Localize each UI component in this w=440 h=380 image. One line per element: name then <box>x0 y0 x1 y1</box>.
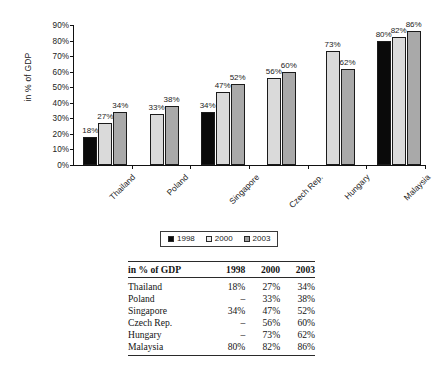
table-row: Czech Rep.–56%60% <box>128 316 315 328</box>
data-table: in % of GDP 1998 2000 2003 Thailand18%27… <box>128 261 315 356</box>
table-cell-1998: – <box>210 292 245 304</box>
y-axis-tick-mark <box>70 56 74 57</box>
table-col-header-2000: 2000 <box>245 262 280 278</box>
legend-label: 2003 <box>253 234 271 243</box>
x-axis-category-label: Czech Rep. <box>287 172 325 210</box>
table-cell-2000: 73% <box>245 329 280 341</box>
bar-value-label: 38% <box>163 95 179 104</box>
bar <box>83 137 97 165</box>
table-row: Poland–33%38% <box>128 292 315 304</box>
table-body: Thailand18%27%34%Poland–33%38%Singapore3… <box>128 278 315 356</box>
table-header: in % of GDP 1998 2000 2003 <box>128 262 315 278</box>
bar-value-label: 73% <box>324 40 340 49</box>
chart-legend: 199820002003 <box>160 231 278 247</box>
bar <box>377 41 391 165</box>
bar <box>201 112 215 165</box>
plot-area: 0%10%20%30%40%50%60%70%80%90% 18%27%34%3… <box>73 25 425 165</box>
bar <box>326 51 340 165</box>
y-axis-tick-label: 90% <box>33 21 69 30</box>
table-cell-2003: 62% <box>280 329 315 341</box>
table-cell-2003: 60% <box>280 316 315 328</box>
y-axis-tick-mark <box>70 72 74 73</box>
x-axis-category-label: Malaysia <box>401 172 431 202</box>
y-axis-tick-label: 20% <box>33 129 69 138</box>
table-cell-country: Poland <box>128 292 210 304</box>
table-cell-2003: 52% <box>280 304 315 316</box>
table-header-row: in % of GDP 1998 2000 2003 <box>128 262 315 278</box>
y-axis-tick-mark <box>70 87 74 88</box>
bar <box>113 112 127 165</box>
table-cell-country: Thailand <box>128 278 210 293</box>
table-cell-1998: – <box>210 316 245 328</box>
y-axis-tick-label: 10% <box>33 145 69 154</box>
x-axis-tick-mark <box>249 165 250 169</box>
y-axis-tick-label: 80% <box>33 36 69 45</box>
bar-value-label: 56% <box>266 67 282 76</box>
bar <box>165 106 179 165</box>
bar-value-label: 52% <box>230 73 246 82</box>
legend-swatch-icon <box>244 236 250 242</box>
y-axis-tick-mark <box>70 41 74 42</box>
bar-value-label: 33% <box>148 103 164 112</box>
table-cell-1998: – <box>210 329 245 341</box>
legend-entry: 2003 <box>244 234 271 243</box>
table-col-header-2003: 2003 <box>280 262 315 278</box>
data-table-container: in % of GDP 1998 2000 2003 Thailand18%27… <box>128 261 315 356</box>
bar-value-label: 47% <box>215 81 231 90</box>
legend-entry: 1998 <box>168 234 195 243</box>
y-axis-line <box>73 25 74 166</box>
legend-swatch-icon <box>168 236 174 242</box>
y-axis-tick-label: 0% <box>33 161 69 170</box>
bar <box>231 84 245 165</box>
bar-chart-figure: in % of GDP 0%10%20%30%40%50%60%70%80%90… <box>0 0 440 222</box>
bar-value-label: 80% <box>376 30 392 39</box>
table-cell-country: Malaysia <box>128 341 210 356</box>
y-axis-tick-mark <box>70 134 74 135</box>
y-axis-title: in % of GDP <box>23 27 33 127</box>
bar-value-label: 18% <box>82 126 98 135</box>
table-row: Thailand18%27%34% <box>128 278 315 293</box>
x-axis-tick-mark <box>425 165 426 169</box>
y-axis-tick-mark <box>70 149 74 150</box>
table-row: Hungary–73%62% <box>128 329 315 341</box>
x-axis-category-label: Thailand <box>108 172 138 202</box>
bar-value-label: 60% <box>281 61 297 70</box>
bar <box>98 123 112 165</box>
table-cell-country: Czech Rep. <box>128 316 210 328</box>
y-axis-tick-mark <box>70 118 74 119</box>
table-cell-2000: 82% <box>245 341 280 356</box>
bar <box>150 114 164 165</box>
x-axis-category-label: Singapore <box>227 172 261 206</box>
y-axis-tick-label: 30% <box>33 114 69 123</box>
table-col-header-1998: 1998 <box>210 262 245 278</box>
table-cell-2000: 56% <box>245 316 280 328</box>
x-axis-tick-mark <box>132 165 133 169</box>
y-axis-tick-label: 70% <box>33 52 69 61</box>
table-cell-2000: 33% <box>245 292 280 304</box>
bar <box>407 31 421 165</box>
bar-value-label: 27% <box>97 112 113 121</box>
legend-entry: 2000 <box>206 234 233 243</box>
bar-value-label: 62% <box>339 58 355 67</box>
y-axis-tick-label: 50% <box>33 83 69 92</box>
x-axis-category-label: Hungary <box>342 172 371 201</box>
x-axis-tick-mark <box>366 165 367 169</box>
bar-value-label: 34% <box>200 101 216 110</box>
legend-label: 2000 <box>215 234 233 243</box>
y-axis-tick-label: 60% <box>33 67 69 76</box>
table-row: Malaysia80%82%86% <box>128 341 315 356</box>
legend-swatch-icon <box>206 236 212 242</box>
bar-value-label: 82% <box>391 26 407 35</box>
table-cell-1998: 34% <box>210 304 245 316</box>
legend-label: 1998 <box>177 234 195 243</box>
bar <box>392 37 406 165</box>
table-col-header-metric: in % of GDP <box>128 262 210 278</box>
x-axis-tick-mark <box>308 165 309 169</box>
bar-value-label: 86% <box>406 20 422 29</box>
table-cell-2000: 27% <box>245 278 280 293</box>
x-axis-tick-mark <box>190 165 191 169</box>
bar <box>282 72 296 165</box>
bar <box>341 69 355 165</box>
bar-value-label: 34% <box>112 101 128 110</box>
table-row: Singapore34%47%52% <box>128 304 315 316</box>
